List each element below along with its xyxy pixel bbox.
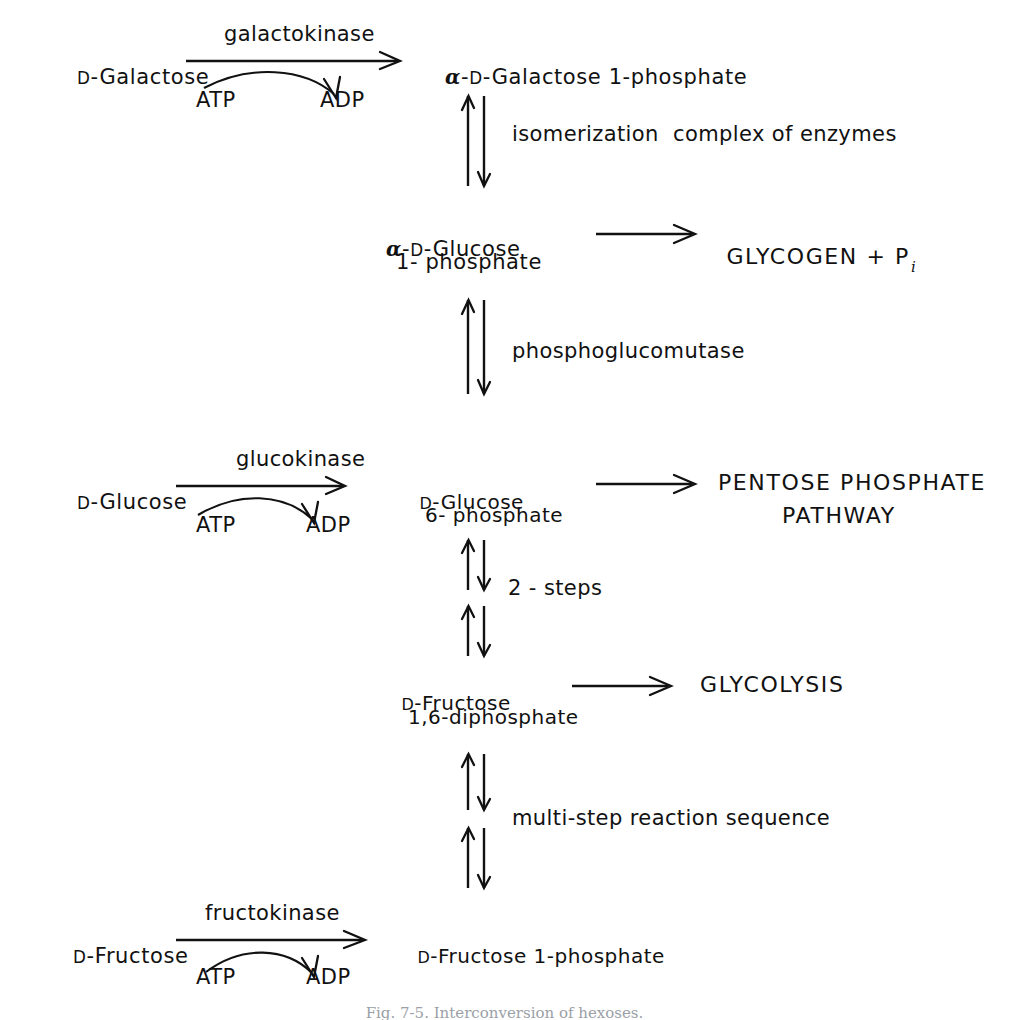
enzyme-fructokinase: fructokinase — [205, 903, 340, 924]
output-pentose-phosphate-pathway-line2: PATHWAY — [782, 505, 896, 527]
reversible-arrow-isomerization — [462, 96, 496, 188]
reversible-arrow-two-steps-upper — [462, 540, 496, 592]
output-pentose-phosphate-pathway-line1: PENTOSE PHOSPHATE — [718, 472, 986, 494]
label-text: -Fructose — [87, 944, 189, 968]
reversible-arrow-two-steps-lower — [462, 606, 496, 658]
label-glucose-6-phosphate-line2: 6- phosphate — [425, 505, 563, 525]
label-d-fructose: D-Fructose — [44, 925, 189, 988]
cofactor-atp-1: ATP — [196, 90, 236, 111]
d-prefix: D — [469, 68, 482, 88]
step-phosphoglucomutase: phosphoglucomutase — [512, 341, 745, 362]
output-glycogen-text: GLYCOGEN + P — [726, 244, 910, 269]
reversible-arrow-phosphoglucomutase — [462, 300, 496, 396]
pathway-diagram: D-Galactose galactokinase ATP ADP α-D-Ga… — [0, 0, 1009, 1020]
alpha-symbol: α — [445, 65, 461, 89]
label-text: -Fructose 1-phosphate — [430, 944, 665, 968]
cofactor-adp-3: ADP — [306, 967, 351, 988]
figure-caption: Fig. 7-5. Interconversion of hexoses. — [0, 1004, 1009, 1020]
step-isomerization: isomerization complex of enzymes — [512, 124, 897, 145]
step-two-steps: 2 - steps — [508, 578, 602, 599]
output-glycolysis: GLYCOLYSIS — [700, 674, 845, 696]
label-glucose-1-phosphate-line2: 1- phosphate — [396, 252, 542, 273]
arrow-to-glycogen — [596, 222, 706, 252]
label-text: -Galactose 1-phosphate — [483, 65, 748, 89]
label-fructose-diphosphate-line2: 1,6-diphosphate — [408, 707, 579, 727]
arrow-to-pentose-pathway — [596, 472, 708, 502]
enzyme-galactokinase: galactokinase — [224, 24, 375, 45]
step-multi-step: multi-step reaction sequence — [512, 808, 830, 829]
enzyme-glucokinase: glucokinase — [236, 449, 365, 470]
reversible-arrow-multistep-upper — [462, 754, 496, 812]
label-d-fructose-1-phosphate: D-Fructose 1-phosphate — [390, 926, 665, 986]
d-prefix: D — [77, 68, 90, 88]
output-glycogen: GLYCOGEN + Pi — [692, 224, 916, 290]
d-prefix: D — [73, 947, 86, 967]
reversible-arrow-multistep-lower — [462, 828, 496, 890]
d-prefix: D — [417, 948, 430, 967]
subscript-i: i — [911, 258, 917, 276]
d-prefix: D — [77, 493, 90, 513]
cofactor-atp-3: ATP — [196, 967, 236, 988]
label-d-glucose: D-Glucose — [48, 471, 187, 534]
label-text: -Glucose — [91, 490, 188, 514]
cofactor-adp-2: ADP — [306, 515, 351, 536]
cofactor-atp-2: ATP — [196, 515, 236, 536]
cofactor-adp-1: ADP — [320, 90, 365, 111]
arrow-to-glycolysis — [572, 674, 688, 704]
